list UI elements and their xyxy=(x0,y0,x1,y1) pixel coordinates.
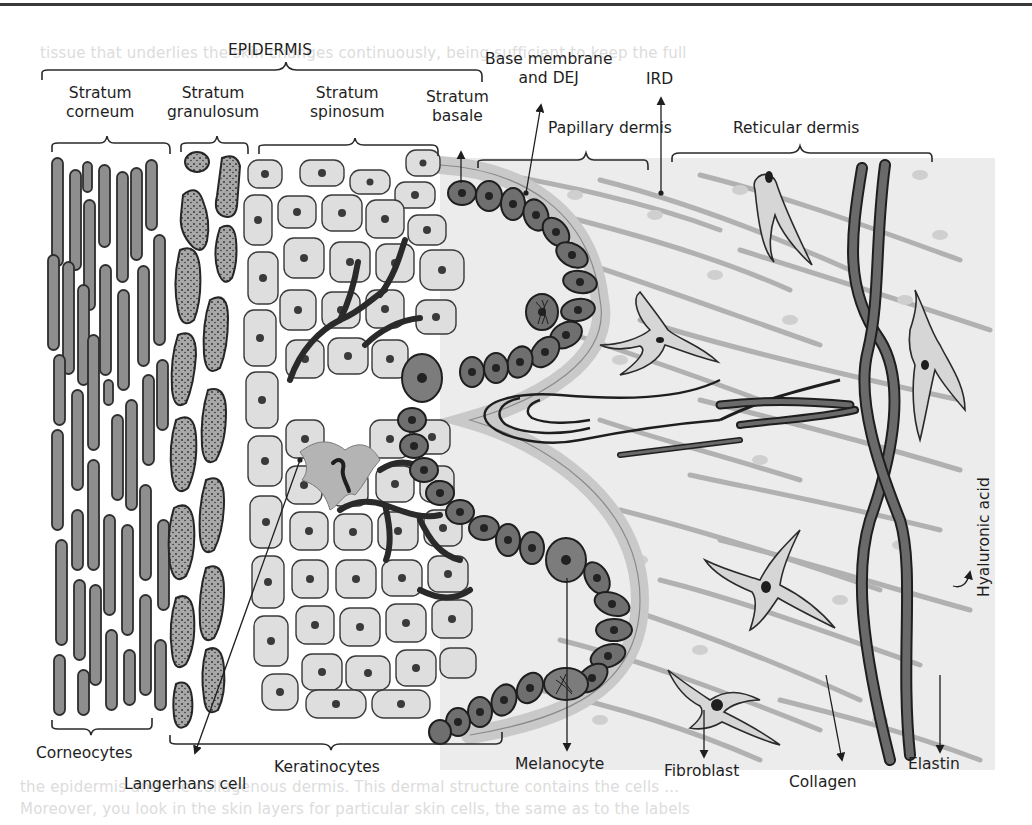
skin-layers-figure: tissue that underlies the skin changes c… xyxy=(0,0,1032,825)
label-epidermis: EPIDERMIS xyxy=(228,41,312,60)
label-hyaluronic-acid: Hyaluronic acid xyxy=(975,477,993,597)
label-melanocyte: Melanocyte xyxy=(515,755,604,774)
label-ird: IRD xyxy=(646,70,673,89)
skin-illustration xyxy=(0,0,1032,825)
label-keratinocytes: Keratinocytes xyxy=(274,758,380,777)
label-corneocytes: Corneocytes xyxy=(36,744,133,763)
label-stratum-spinosum: Stratum spinosum xyxy=(310,84,385,122)
label-stratum-basale: Stratum basale xyxy=(426,88,489,126)
label-reticular-dermis: Reticular dermis xyxy=(733,119,859,138)
stratum-corneum-cells xyxy=(48,158,169,715)
stratum-granulosum-cells xyxy=(169,152,240,728)
label-papillary-dermis: Papillary dermis xyxy=(548,119,672,138)
label-base-membrane-dej: Base membrane and DEJ xyxy=(485,50,612,88)
label-fibroblast: Fibroblast xyxy=(664,762,739,781)
label-collagen: Collagen xyxy=(789,773,857,792)
keratinocyte-cells xyxy=(244,150,476,718)
label-elastin: Elastin xyxy=(908,755,960,774)
label-stratum-corneum: Stratum corneum xyxy=(66,84,134,122)
label-stratum-granulosum: Stratum granulosum xyxy=(167,84,259,122)
label-langerhans-cell: Langerhans cell xyxy=(124,775,246,794)
